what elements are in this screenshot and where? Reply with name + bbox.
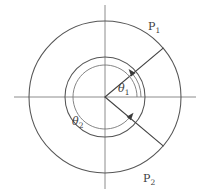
angle-label-theta1: θ1 bbox=[118, 82, 129, 97]
angle-label-theta2: θ2 bbox=[72, 115, 84, 130]
point-label-p1: P1 bbox=[148, 20, 160, 35]
point-label-p1-subscript: 1 bbox=[155, 26, 160, 35]
angle-label-theta2-subscript: 2 bbox=[79, 121, 84, 130]
radius-line-p2 bbox=[105, 97, 163, 146]
point-label-p2-subscript: 2 bbox=[150, 178, 155, 187]
angle-label-theta1-subscript: 1 bbox=[125, 88, 130, 97]
point-label-p2: P2 bbox=[143, 172, 155, 187]
geometry-diagram: P1 P2 θ1 θ2 bbox=[0, 0, 210, 194]
diagram-canvas: P1 P2 θ1 θ2 bbox=[0, 0, 210, 194]
